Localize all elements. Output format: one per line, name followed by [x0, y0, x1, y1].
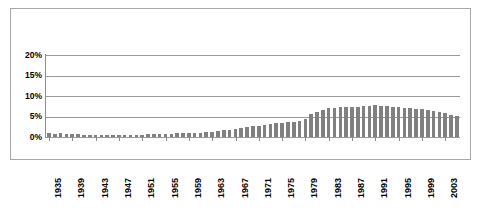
bar — [321, 110, 325, 137]
bar — [298, 121, 302, 137]
bar — [263, 125, 267, 137]
x-tick-mark — [72, 137, 73, 141]
bar — [257, 126, 261, 137]
bar — [239, 128, 243, 137]
x-tick-label: 1943 — [100, 178, 110, 198]
bar — [391, 107, 395, 137]
x-tick-label: 1939 — [76, 178, 86, 198]
chart-title — [0, 0, 483, 1]
bar — [455, 116, 459, 137]
x-tick-label: 1959 — [193, 178, 203, 198]
x-tick-label: 2003 — [449, 178, 459, 198]
x-tick-mark — [212, 137, 213, 141]
bar — [403, 108, 407, 137]
x-tick-label: 1935 — [53, 178, 63, 198]
bar — [245, 127, 249, 137]
bar — [362, 106, 366, 137]
bar — [356, 107, 360, 137]
bar-slot — [454, 55, 460, 137]
bar — [228, 130, 232, 137]
x-tick-mark — [329, 137, 330, 141]
bar — [304, 119, 308, 137]
x-tick-label: 1947 — [123, 178, 133, 198]
x-tick-mark — [189, 137, 190, 141]
bar — [280, 123, 284, 137]
x-axis-tick-marks — [46, 137, 460, 142]
x-tick-mark — [142, 137, 143, 141]
x-tick-mark — [236, 137, 237, 141]
bar — [426, 110, 430, 137]
y-tick-label: 5% — [12, 112, 42, 121]
x-tick-label: 1955 — [170, 178, 180, 198]
bar — [234, 129, 238, 137]
bar — [309, 114, 313, 137]
bar — [269, 124, 273, 137]
x-tick-label: 1967 — [240, 178, 250, 198]
x-tick-mark — [445, 137, 446, 141]
bar — [397, 107, 401, 137]
x-tick-label: 1991 — [379, 178, 389, 198]
x-tick-label: 1963 — [216, 178, 226, 198]
x-tick-label: 1979 — [309, 178, 319, 198]
bar — [385, 106, 389, 137]
x-tick-label: 1995 — [403, 178, 413, 198]
bar — [438, 112, 442, 137]
x-tick-label: 1951 — [146, 178, 156, 198]
x-tick-mark — [375, 137, 376, 141]
x-tick-label: 1971 — [263, 178, 273, 198]
x-tick-mark — [259, 137, 260, 141]
bar — [432, 111, 436, 137]
bar — [274, 123, 278, 137]
y-tick-label: 15% — [12, 71, 42, 80]
bar — [333, 108, 337, 137]
bar — [344, 107, 348, 137]
x-tick-mark — [282, 137, 283, 141]
x-tick-mark — [352, 137, 353, 141]
y-axis-labels: 0%5%10%15%20% — [12, 49, 42, 144]
x-tick-label: 1999 — [426, 178, 436, 198]
x-tick-mark — [49, 137, 50, 141]
x-axis-labels: 1935193919431947195119551959196319671971… — [46, 168, 460, 218]
bar — [327, 108, 331, 137]
bar — [368, 106, 372, 137]
bar — [379, 106, 383, 137]
plot-area — [46, 55, 460, 137]
bar — [286, 122, 290, 137]
bar — [292, 122, 296, 137]
x-tick-mark — [422, 137, 423, 141]
bar — [443, 113, 447, 137]
x-tick-mark — [96, 137, 97, 141]
bar — [339, 107, 343, 137]
bar — [315, 112, 319, 137]
bar — [420, 109, 424, 137]
bar — [251, 126, 255, 137]
bar — [449, 115, 453, 137]
x-tick-label: 1975 — [286, 178, 296, 198]
y-tick-label: 10% — [12, 92, 42, 101]
x-tick-mark — [305, 137, 306, 141]
bar — [350, 107, 354, 137]
x-tick-mark — [166, 137, 167, 141]
y-tick-label: 0% — [12, 133, 42, 142]
bar — [373, 105, 377, 137]
bars-layer — [46, 55, 460, 137]
x-tick-label: 1987 — [356, 178, 366, 198]
x-tick-label: 1983 — [333, 178, 343, 198]
y-tick-label: 20% — [12, 51, 42, 60]
bar — [408, 108, 412, 137]
x-tick-mark — [399, 137, 400, 141]
bar — [414, 109, 418, 137]
x-tick-mark — [119, 137, 120, 141]
